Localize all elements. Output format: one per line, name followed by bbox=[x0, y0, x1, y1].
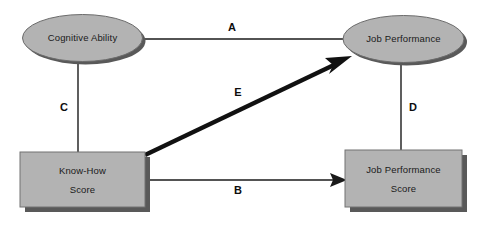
job-performance-score-label-line1: Job Performance bbox=[366, 164, 441, 175]
know-how-score-label-line1: Know-How bbox=[59, 165, 106, 176]
cognitive-ability-label: Cognitive Ability bbox=[48, 32, 118, 43]
path-label-a: A bbox=[228, 21, 236, 33]
job-performance-score-rect bbox=[345, 150, 462, 207]
path-label-b: B bbox=[234, 184, 242, 196]
job-performance-score-label-line2: Score bbox=[391, 183, 417, 194]
job-performance-label: Job Performance bbox=[366, 33, 441, 44]
node-cognitive-ability[interactable]: Cognitive Ability bbox=[23, 15, 146, 65]
know-how-score-rect bbox=[20, 152, 145, 207]
path-e-line bbox=[145, 64, 336, 155]
path-e-connector bbox=[145, 56, 352, 155]
diagram-canvas: Cognitive Ability Job Performance Know-H… bbox=[0, 0, 480, 228]
node-job-performance[interactable]: Job Performance bbox=[343, 16, 467, 66]
path-diagram: Cognitive Ability Job Performance Know-H… bbox=[0, 0, 480, 228]
path-label-c: C bbox=[60, 101, 68, 113]
know-how-score-label-line2: Score bbox=[70, 184, 96, 195]
path-b-connector bbox=[145, 173, 347, 187]
path-label-d: D bbox=[409, 101, 417, 113]
path-label-e: E bbox=[234, 86, 241, 98]
node-job-performance-score[interactable]: Job Performance Score bbox=[345, 150, 467, 212]
node-know-how-score[interactable]: Know-How Score bbox=[20, 152, 150, 212]
